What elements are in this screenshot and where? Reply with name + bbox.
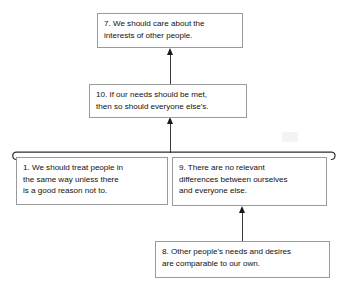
arrow-head-bracket-to-10 [167, 117, 173, 124]
node-1-line-1: 1. We should treat people in [23, 162, 161, 174]
node-8-line-2: are comparable to our own. [162, 258, 323, 270]
node-7-line-1: 7. We should care about the [104, 18, 236, 30]
node-1-line-3: is a good reason not to. [23, 185, 161, 197]
node-box-10[interactable]: 10. If our needs should be met, then so … [89, 84, 247, 118]
node-1-line-2: the same way unless there [23, 174, 161, 186]
arrow-head-10-to-7 [167, 48, 173, 55]
node-9-line-1: 9. There are no relevant [179, 162, 320, 174]
node-10-line-2: then so should everyone else's. [96, 101, 240, 113]
node-box-8[interactable]: 8. Other people's needs and desires are … [155, 241, 330, 278]
node-box-7[interactable]: 7. We should care about the interests of… [97, 13, 243, 48]
arrow-stem-bracket-to-10 [170, 124, 171, 153]
arrow-stem-10-to-7 [170, 55, 171, 84]
node-9-line-2: differences between ourselves [179, 174, 320, 186]
node-10-line-1: 10. If our needs should be met, [96, 89, 240, 101]
arrow-head-8-to-9 [239, 206, 245, 213]
node-7-line-2: interests of other people. [104, 30, 236, 42]
node-8-line-1: 8. Other people's needs and desires [162, 246, 323, 258]
argument-diagram-canvas: 7. We should care about the interests of… [0, 0, 351, 288]
arrow-stem-8-to-9 [242, 213, 243, 242]
node-box-1[interactable]: 1. We should treat people in the same wa… [16, 157, 168, 205]
page-artifact [282, 132, 298, 142]
node-9-line-3: and everyone else. [179, 185, 320, 197]
node-box-9[interactable]: 9. There are no relevant differences bet… [172, 157, 327, 206]
